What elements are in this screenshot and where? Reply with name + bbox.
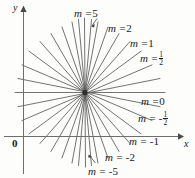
slope-label-prefix: m = -: [129, 135, 154, 147]
slope-label-prefix: m = -: [138, 112, 163, 124]
fraction-one-half: 12: [163, 111, 168, 126]
slope-label-m-0: m =0: [141, 96, 165, 107]
fraction-denominator: 2: [163, 119, 168, 126]
fraction-one-half: 12: [159, 51, 164, 66]
figure-canvas: [0, 0, 195, 178]
slope-label-value: 5: [113, 165, 119, 177]
slope-label-prefix: m = -: [88, 165, 113, 177]
slope-label-value: 1: [154, 135, 160, 147]
slope-label-m-neg-1: m = -1: [129, 136, 159, 147]
origin-label: 0: [12, 138, 18, 149]
slope-label-m-5: m =5: [74, 8, 98, 19]
slope-family-figure: y x 0 m =5 m =2 m =1 m =12 m =0 m = -12 …: [0, 0, 195, 178]
slope-label-m-half: m =12: [140, 51, 163, 66]
slope-label-value: 1: [148, 37, 154, 49]
slope-label-m-neg-5: m = -5: [88, 166, 118, 177]
pencil-center-dot: [82, 90, 87, 95]
slope-label-m-1: m =1: [130, 38, 154, 49]
slope-label-prefix: m =: [141, 95, 159, 107]
slope-label-m-neg-2: m = -2: [105, 152, 135, 163]
slope-label-prefix: m =: [108, 22, 126, 34]
slope-label-value: 2: [126, 22, 132, 34]
slope-label-prefix: m =: [140, 52, 158, 64]
slope-label-m-neg-half: m = -12: [138, 111, 168, 126]
y-axis-label: y: [13, 3, 17, 13]
y-axis-arrow: [20, 6, 26, 13]
slope-label-prefix: m =: [130, 37, 148, 49]
slope-label-prefix: m = -: [105, 151, 130, 163]
slope-label-value: 2: [130, 151, 136, 163]
x-axis-label: x: [184, 139, 188, 149]
slope-label-value: 5: [92, 7, 98, 19]
slope-label-prefix: m =: [74, 7, 92, 19]
slope-label-m-2: m =2: [108, 23, 132, 34]
fraction-denominator: 2: [159, 59, 164, 66]
slope-label-value: 0: [159, 95, 165, 107]
